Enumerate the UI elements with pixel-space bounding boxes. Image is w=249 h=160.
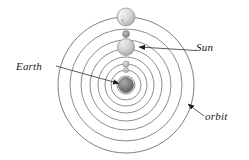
orbit-leader-line bbox=[188, 104, 204, 116]
small-body-inner-upper bbox=[123, 61, 129, 67]
label-earth: Earth bbox=[16, 61, 42, 72]
small-body-inner-lower bbox=[123, 67, 128, 72]
label-sun: Sun bbox=[196, 42, 213, 53]
orbit-diagram-svg bbox=[0, 0, 249, 160]
moon-body bbox=[117, 8, 135, 26]
diagram-canvas: Earth Sun orbit bbox=[0, 0, 249, 160]
celestial-bodies-group bbox=[117, 8, 135, 93]
sun-body bbox=[118, 39, 135, 56]
earth-body bbox=[119, 78, 134, 93]
label-orbit: orbit bbox=[205, 111, 227, 122]
small-body-outer bbox=[123, 31, 130, 38]
earth-leader-line bbox=[56, 66, 119, 84]
